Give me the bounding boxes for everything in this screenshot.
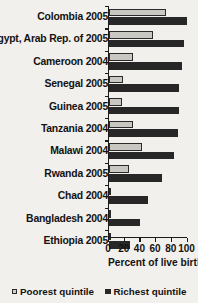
- x-axis-tick-label: 100: [178, 243, 195, 254]
- x-axis-tick: [108, 238, 109, 242]
- y-axis-tick: [105, 6, 109, 7]
- category-label: Cameroon 2004: [33, 51, 108, 73]
- x-axis-tick: [124, 238, 125, 242]
- y-axis-tick: [105, 28, 109, 29]
- x-axis-tick: [171, 238, 172, 242]
- category-label: Tanzania 2004: [41, 118, 108, 140]
- category-label: Rwanda 2005: [44, 163, 108, 185]
- bar-richest-quintile: [109, 107, 179, 115]
- bar-row: Guinea 2005: [0, 96, 198, 118]
- bar-rows: Colombia 2005Egypt, Arab Rep. of 2005Cam…: [0, 6, 198, 252]
- bar-richest-quintile: [109, 40, 184, 48]
- x-axis-tick-label: 80: [165, 243, 176, 254]
- y-axis-tick: [105, 208, 109, 209]
- plot-area: Colombia 2005Egypt, Arab Rep. of 2005Cam…: [0, 0, 198, 248]
- x-axis-tick-label: 20: [118, 243, 129, 254]
- bar-row: Bangladesh 2004: [0, 208, 198, 230]
- bar-pair: [109, 185, 198, 207]
- legend-item: Poorest quintile: [12, 286, 95, 297]
- bar-row: Rwanda 2005: [0, 163, 198, 185]
- chart-legend: Poorest quintileRichest quintile: [0, 286, 198, 297]
- bar-row: Egypt, Arab Rep. of 2005: [0, 28, 198, 50]
- x-axis-tick-label: 0: [105, 243, 111, 254]
- bar-poorest-quintile: [109, 53, 133, 61]
- bar-richest-quintile: [109, 219, 140, 227]
- bar-poorest-quintile: [109, 165, 129, 173]
- bar-poorest-quintile: [109, 143, 142, 151]
- legend-swatch-richest: [105, 289, 111, 295]
- category-label: Senegal 2005: [45, 73, 108, 95]
- bar-pair: [109, 163, 198, 185]
- bar-poorest-quintile: [109, 121, 133, 129]
- x-axis-tick-labels: 020406080100: [100, 243, 198, 256]
- bar-richest-quintile: [109, 84, 179, 92]
- y-axis-tick: [105, 51, 109, 52]
- bar-row: Cameroon 2004: [0, 51, 198, 73]
- y-axis-tick: [105, 185, 109, 186]
- bar-pair: [109, 140, 198, 162]
- bar-richest-quintile: [109, 17, 187, 25]
- bar-richest-quintile: [109, 62, 182, 70]
- y-axis-line: [108, 6, 109, 237]
- y-axis-tick: [105, 73, 109, 74]
- y-axis-tick: [105, 163, 109, 164]
- y-axis-tick: [105, 230, 109, 231]
- bar-richest-quintile: [109, 129, 178, 137]
- bar-pair: [109, 96, 198, 118]
- y-axis-tick: [105, 118, 109, 119]
- category-label: Guinea 2005: [49, 96, 108, 118]
- bar-richest-quintile: [109, 174, 162, 182]
- category-label: Ethiopia 2005: [44, 230, 108, 252]
- bar-poorest-quintile: [109, 98, 122, 106]
- category-label: Malawi 2004: [50, 140, 108, 162]
- bar-poorest-quintile: [109, 188, 111, 196]
- bar-pair: [109, 73, 198, 95]
- bar-row: Senegal 2005: [0, 73, 198, 95]
- x-axis-tick-label: 60: [150, 243, 161, 254]
- x-axis-label: Percent of live births: [108, 257, 198, 268]
- bar-poorest-quintile: [109, 210, 111, 218]
- category-label: Bangladesh 2004: [26, 208, 108, 230]
- bar-pair: [109, 28, 198, 50]
- bar-richest-quintile: [109, 196, 148, 204]
- bar-pair: [109, 118, 198, 140]
- category-label: Colombia 2005: [37, 6, 108, 28]
- x-axis-tick: [155, 238, 156, 242]
- y-axis-tick: [105, 140, 109, 141]
- legend-label: Richest quintile: [114, 286, 187, 297]
- bar-row: Tanzania 2004: [0, 118, 198, 140]
- bar-poorest-quintile: [109, 9, 166, 17]
- bar-poorest-quintile: [109, 31, 153, 39]
- bar-richest-quintile: [109, 152, 174, 160]
- bar-poorest-quintile: [109, 76, 123, 84]
- legend-swatch-poorest: [12, 289, 18, 295]
- category-label: Chad 2004: [58, 185, 108, 207]
- category-label: Egypt, Arab Rep. of 2005: [0, 28, 108, 50]
- x-axis-tick-label: 40: [134, 243, 145, 254]
- bar-row: Chad 2004: [0, 185, 198, 207]
- y-axis-tick: [105, 96, 109, 97]
- x-axis-line: [108, 237, 187, 238]
- chart-figure: Colombia 2005Egypt, Arab Rep. of 2005Cam…: [0, 0, 198, 303]
- bar-pair: [109, 51, 198, 73]
- x-axis-tick: [139, 238, 140, 242]
- bar-pair: [109, 6, 198, 28]
- bar-pair: [109, 208, 198, 230]
- bar-row: Colombia 2005: [0, 6, 198, 28]
- legend-label: Poorest quintile: [20, 286, 94, 297]
- x-axis-tick: [187, 238, 188, 242]
- bar-row: Malawi 2004: [0, 140, 198, 162]
- legend-item: Richest quintile: [105, 286, 186, 297]
